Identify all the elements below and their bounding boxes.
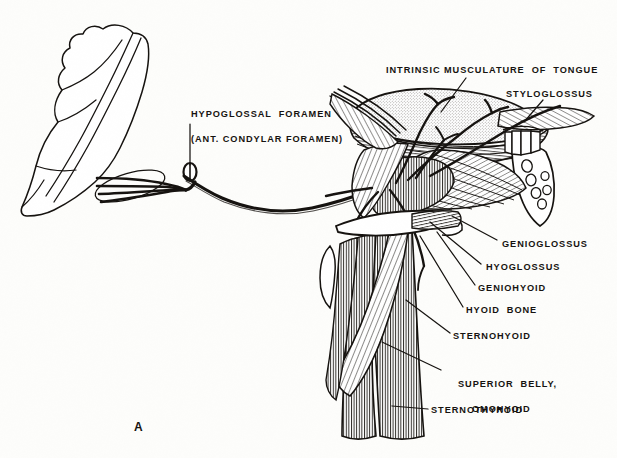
label-hypoglossal-foramen: HYPOGLOSSAL FORAMEN (ANT. CONDYLAR FORAM…	[177, 95, 343, 158]
label-styloglossus: STYLOGLOSSUS	[506, 88, 593, 101]
anatomical-plate: HYPOGLOSSAL FORAMEN (ANT. CONDYLAR FORAM…	[0, 0, 617, 458]
label-sternothyroid: STERNOTHYROID	[431, 404, 523, 417]
label-geniohyoid: GENIOHYOID	[478, 282, 546, 295]
label-hypoglossal-foramen-line2: (ANT. CONDYLAR FORAMEN)	[191, 134, 343, 144]
nerve-trunk-edge	[186, 181, 373, 214]
laryngeal-prominence	[320, 246, 335, 308]
label-intrinsic-musculature: INTRINSIC MUSCULATURE OF TONGUE	[386, 64, 598, 77]
label-hypoglossal-foramen-line1: HYPOGLOSSAL FORAMEN	[191, 109, 332, 119]
label-genioglossus: GENIOGLOSSUS	[502, 238, 588, 251]
label-superior-belly-line1: SUPERIOR BELLY,	[458, 379, 557, 389]
label-hyoid-bone: HYOID BONE	[466, 304, 537, 317]
geniohyoid-muscle	[412, 211, 461, 229]
label-hyoglossus: HYOGLOSSUS	[486, 261, 560, 274]
hypoglossal-rootlets	[97, 178, 195, 202]
label-superior-belly-omohyoid: SUPERIOR BELLY, OMOHYOID	[444, 365, 557, 428]
label-sternohyoid: STERNOHYOID	[453, 330, 531, 343]
figure-letter: A	[134, 420, 143, 434]
